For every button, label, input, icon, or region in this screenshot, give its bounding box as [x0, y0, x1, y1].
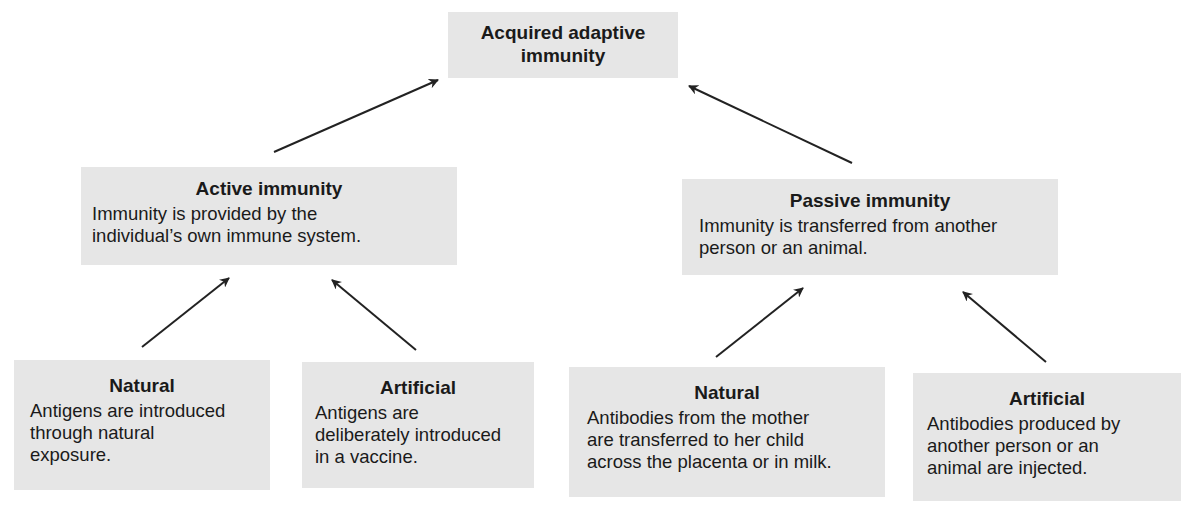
node-passive-artificial: Artificial Antibodies produced by anothe…	[913, 373, 1181, 501]
arrow-passive-natural-to-passive	[716, 288, 803, 357]
node-active-artificial: Artificial Antigens are deliberately int…	[302, 362, 534, 488]
arrow-active-to-root	[274, 80, 438, 152]
node-passive-immunity-desc-line2: person or an animal.	[699, 237, 1058, 259]
arrow-passive-artificial-to-passive	[963, 292, 1046, 362]
node-passive-artificial-desc-line1: Antibodies produced by	[927, 413, 1181, 435]
node-active-artificial-desc-line1: Antigens are	[315, 402, 534, 424]
node-active-immunity-desc-line1: Immunity is provided by the	[92, 203, 457, 225]
node-passive-artificial-desc-line3: animal are injected.	[927, 457, 1181, 479]
node-passive-immunity-desc-line1: Immunity is transferred from another	[699, 215, 1058, 237]
node-active-natural-desc-line1: Antigens are introduced	[30, 400, 270, 422]
node-active-artificial-title: Artificial	[315, 376, 534, 399]
node-passive-natural-desc-line1: Antibodies from the mother	[587, 407, 885, 429]
arrow-passive-to-root	[689, 86, 852, 163]
node-passive-artificial-title: Artificial	[927, 387, 1181, 410]
root-node-title-line2: immunity	[448, 44, 678, 67]
node-passive-natural: Natural Antibodies from the mother are t…	[569, 367, 885, 497]
node-active-artificial-desc-line3: in a vaccine.	[315, 446, 534, 468]
node-passive-artificial-desc-line2: another person or an	[927, 435, 1181, 457]
root-node-acquired-adaptive-immunity: Acquired adaptive immunity	[448, 12, 678, 78]
node-active-immunity-desc-line2: individual’s own immune system.	[92, 225, 457, 247]
node-passive-natural-desc-line3: across the placenta or in milk.	[587, 451, 885, 473]
node-active-artificial-desc-line2: deliberately introduced	[315, 424, 534, 446]
node-active-immunity-title: Active immunity	[92, 177, 457, 200]
root-node-title-line1: Acquired adaptive	[448, 21, 678, 44]
node-active-natural-title: Natural	[30, 374, 270, 397]
node-active-natural-desc-line3: exposure.	[30, 444, 270, 466]
node-passive-immunity: Passive immunity Immunity is transferred…	[682, 179, 1058, 275]
arrow-active-artificial-to-active	[332, 280, 416, 350]
node-active-immunity: Active immunity Immunity is provided by …	[81, 167, 457, 265]
arrow-active-natural-to-active	[142, 278, 229, 347]
node-passive-immunity-title: Passive immunity	[699, 189, 1058, 212]
node-active-natural: Natural Antigens are introduced through …	[14, 360, 270, 490]
node-passive-natural-desc-line2: are transferred to her child	[587, 429, 885, 451]
node-passive-natural-title: Natural	[587, 381, 885, 404]
node-active-natural-desc-line2: through natural	[30, 422, 270, 444]
